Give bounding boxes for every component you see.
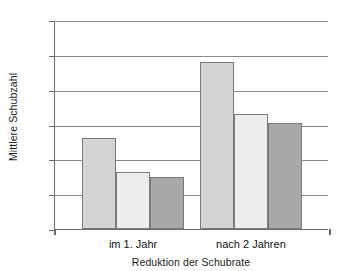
x-axis-tick-origin: [55, 229, 56, 235]
x-axis-title: Reduktion der Schubrate: [54, 256, 328, 268]
y-axis-title: Mittlere Schubzahl: [6, 2, 20, 232]
bar: [268, 123, 302, 229]
gridline: [55, 56, 328, 57]
y-axis-tick: [49, 91, 55, 92]
bar: [82, 138, 116, 229]
bar: [200, 62, 234, 229]
y-axis-tick: [49, 56, 55, 57]
y-axis-tick: [49, 160, 55, 161]
x-axis-category-label: nach 2 Jahren: [186, 238, 316, 250]
bar-chart: Mittlere Schubzahl 00,51,01,52,02,53,0im…: [0, 0, 350, 271]
y-axis-tick: [49, 195, 55, 196]
gridline: [55, 91, 328, 92]
gridline: [55, 21, 328, 22]
y-axis-tick: [49, 126, 55, 127]
plot-area: 00,51,01,52,02,53,0im 1. Jahrnach 2 Jahr…: [54, 21, 328, 230]
bar: [150, 177, 184, 229]
bar: [234, 114, 268, 229]
x-axis-category-label: im 1. Jahr: [68, 238, 198, 250]
x-axis-tick: [330, 229, 331, 235]
x-axis-tick-end: [329, 229, 330, 235]
y-axis-tick: [49, 21, 55, 22]
bar: [116, 172, 150, 229]
